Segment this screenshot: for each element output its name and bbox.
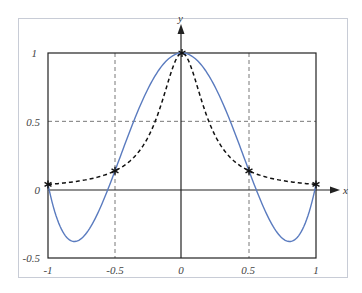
runge-function-curve [48,53,316,184]
interpolation-node-markers [45,49,320,188]
y-tick-0: 0 [35,184,41,196]
x-axis-label: x [342,184,348,196]
plot-box [48,53,316,258]
y-tick-0.5: 0.5 [26,116,40,128]
x-tick-neg0.5: -0.5 [106,264,124,276]
x-tick-neg1: -1 [43,264,52,276]
y-tick-1: 1 [32,47,38,59]
interpolating-polynomial-curve [48,53,316,241]
chart: x y 1 0.5 0 -0.5 -1 -0.5 0 0.5 1 [0,0,362,293]
x-tick-1: 1 [313,264,319,276]
x-tick-0.5: 0.5 [241,264,255,276]
x-axis-arrow-icon [330,187,340,194]
x-tick-0: 0 [178,264,184,276]
y-axis-arrow-icon [178,24,185,34]
y-tick-neg0.5: -0.5 [23,252,41,264]
grid-lines [48,53,316,258]
y-axis-label: y [177,12,183,24]
